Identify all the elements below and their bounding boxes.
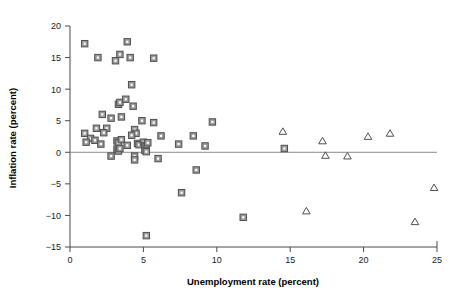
data-point-square (139, 118, 145, 124)
data-point-square (128, 132, 134, 138)
data-point-triangle (411, 218, 419, 224)
data-point-triangle (319, 137, 327, 143)
data-point-triangle (322, 152, 330, 158)
data-point-square (98, 141, 104, 147)
data-point-square (158, 133, 164, 139)
data-point-square (175, 141, 181, 147)
data-point-square (117, 145, 123, 151)
data-point-triangle (364, 133, 372, 139)
scatter-chart-figure: −15−10−505101520 0510152025 Inflation ra… (0, 0, 464, 296)
data-point-square (83, 139, 89, 145)
data-point-square (117, 51, 123, 57)
data-point-square (190, 133, 196, 139)
data-point-square (128, 82, 134, 88)
y-tick-label: 5 (56, 116, 61, 126)
data-point-square (143, 232, 149, 238)
y-tick-label: 15 (51, 53, 61, 63)
data-point-square (209, 119, 215, 125)
y-axis-ticks: −15−10−505101520 (46, 21, 70, 252)
chart-canvas: −15−10−505101520 0510152025 Inflation ra… (0, 0, 464, 296)
data-point-square (145, 140, 151, 146)
data-point-square (130, 103, 136, 109)
y-tick-label: −10 (46, 211, 61, 221)
data-point-triangle (430, 184, 438, 190)
data-point-square (124, 142, 130, 148)
data-point-square (99, 111, 105, 117)
y-tick-label: 10 (51, 85, 61, 95)
x-tick-label: 15 (285, 255, 295, 265)
data-point-square (95, 54, 101, 60)
data-point-triangle (279, 128, 287, 134)
y-tick-label: 20 (51, 21, 61, 31)
data-point-square (150, 119, 156, 125)
data-point-square (108, 153, 114, 159)
y-tick-label: −15 (46, 242, 61, 252)
x-axis-title: Unemployment rate (percent) (187, 276, 319, 287)
x-tick-label: 5 (141, 255, 146, 265)
data-point-square (101, 130, 107, 136)
x-tick-label: 20 (359, 255, 369, 265)
x-tick-label: 25 (432, 255, 442, 265)
x-tick-label: 10 (212, 255, 222, 265)
data-point-square (155, 155, 161, 161)
y-tick-label: −5 (51, 179, 61, 189)
data-point-triangle (386, 130, 394, 136)
data-point-square (112, 58, 118, 64)
data-point-square (123, 96, 129, 102)
data-point-square (93, 125, 99, 131)
data-point-square (127, 54, 133, 60)
x-axis-ticks: 0510152025 (67, 247, 442, 265)
y-axis-title: Inflation rate (percent) (7, 88, 18, 188)
data-point-square (131, 157, 137, 163)
data-point-triangle (344, 152, 352, 158)
x-tick-label: 0 (67, 255, 72, 265)
data-point-triangle (303, 207, 311, 213)
data-points (81, 39, 437, 239)
data-point-square (281, 145, 287, 151)
y-tick-label: 0 (56, 148, 61, 158)
data-point-square (108, 115, 114, 121)
data-point-square (178, 189, 184, 195)
data-point-square (118, 114, 124, 120)
data-point-square (124, 39, 130, 45)
data-point-square (150, 55, 156, 61)
data-point-square (143, 148, 149, 154)
data-point-square (240, 214, 246, 220)
data-point-square (202, 143, 208, 149)
data-point-square (81, 40, 87, 46)
data-point-square (193, 167, 199, 173)
